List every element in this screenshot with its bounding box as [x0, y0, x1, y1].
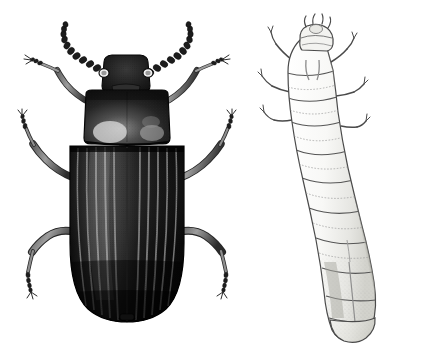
elytra: [66, 142, 190, 328]
illustration-plate: Insect illustration plate Adult beetle, …: [0, 0, 432, 358]
pronotum: [84, 88, 174, 148]
artboard: [0, 0, 432, 358]
head: [99, 55, 153, 92]
